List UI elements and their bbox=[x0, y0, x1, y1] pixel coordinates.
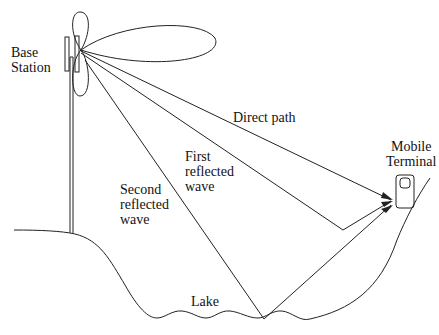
arrowheads bbox=[381, 192, 393, 213]
lake-label: Lake bbox=[191, 294, 219, 309]
terrain-outline bbox=[14, 178, 430, 320]
base-station-tower bbox=[65, 36, 79, 233]
base-station-label: Base Station bbox=[11, 45, 51, 75]
multipath-diagram: Base Station Direct path First reflected… bbox=[0, 0, 439, 335]
antenna-radiation-pattern bbox=[73, 12, 216, 96]
direct-path-ray bbox=[81, 51, 391, 200]
second-reflected-label: Second reflected wave bbox=[120, 182, 169, 227]
first-reflected-label: First reflected wave bbox=[185, 149, 234, 194]
mobile-terminal-device bbox=[396, 175, 414, 208]
direct-path-label: Direct path bbox=[233, 110, 296, 125]
mobile-terminal-label: Mobile Terminal bbox=[386, 139, 436, 169]
